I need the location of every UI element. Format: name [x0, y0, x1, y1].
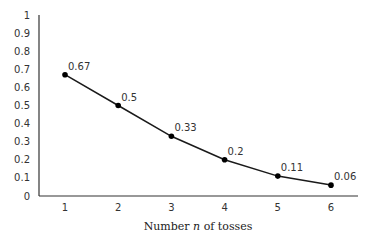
y-tick-label: 1 [24, 10, 30, 21]
x-tick-label: 1 [62, 202, 68, 213]
y-tick-label: 0.4 [14, 118, 30, 129]
y-tick-label: 0.3 [14, 136, 30, 147]
data-value-label: 0.2 [228, 146, 244, 157]
line-chart: 00.10.20.30.40.50.60.70.80.91 123456 Num… [0, 0, 375, 247]
data-point-marker [169, 133, 175, 139]
y-tick-label: 0.7 [14, 64, 30, 75]
y-tick-label: 0 [24, 191, 30, 202]
y-axis: 00.10.20.30.40.50.60.70.80.91 [14, 10, 39, 202]
y-tick-label: 0.6 [14, 82, 30, 93]
data-labels: 0.670.50.330.20.110.06 [68, 61, 356, 182]
data-value-label: 0.67 [68, 61, 90, 72]
data-point-marker [222, 157, 228, 163]
data-value-label: 0.11 [281, 162, 303, 173]
data-value-label: 0.5 [121, 92, 137, 103]
data-point-marker [328, 182, 334, 188]
data-point-marker [62, 72, 68, 78]
data-point-marker [275, 173, 281, 179]
plot-area: 0.670.50.330.20.110.06 [62, 61, 356, 188]
y-tick-label: 0.2 [14, 154, 30, 165]
y-tick-label: 0.9 [14, 28, 30, 39]
y-tick-labels: 00.10.20.30.40.50.60.70.80.91 [14, 10, 30, 202]
data-value-label: 0.33 [174, 122, 196, 133]
y-tick-label: 0.8 [14, 46, 30, 57]
data-point-marker [115, 103, 121, 109]
y-tick-label: 0.5 [14, 100, 30, 111]
x-axis: 123456 Number n of tosses [39, 196, 358, 233]
x-axis-title: Number n of tosses [144, 220, 253, 233]
y-tick-label: 0.1 [14, 172, 30, 183]
data-value-label: 0.06 [334, 171, 356, 182]
x-tick-label: 4 [221, 202, 227, 213]
x-tick-label: 2 [115, 202, 121, 213]
x-tick-label: 5 [275, 202, 281, 213]
x-tick-labels: 123456 [62, 202, 334, 213]
x-tick-label: 3 [168, 202, 174, 213]
x-tick-label: 6 [328, 202, 334, 213]
